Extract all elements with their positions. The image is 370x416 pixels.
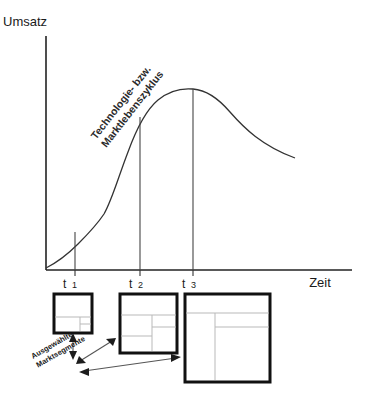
segment-box-2-frame bbox=[120, 294, 177, 353]
lifecycle-curve bbox=[46, 89, 295, 268]
segment-box-1 bbox=[54, 294, 92, 333]
tick-label-t1-base: t bbox=[63, 277, 67, 291]
segment-box-3-frame bbox=[185, 294, 270, 382]
segment-box-1-frame bbox=[54, 294, 92, 333]
tick-label-t2-sub: 2 bbox=[138, 280, 143, 290]
segment-box-2 bbox=[120, 294, 177, 353]
lifecycle-diagram: Umsatz Zeit t 1 t 2 t 3 Technologie- bzw… bbox=[0, 0, 370, 416]
arrow-box1-head-down bbox=[69, 351, 77, 360]
arrow-box2-head-right bbox=[106, 338, 116, 346]
arrow-box3-head-right bbox=[171, 354, 181, 362]
tick-label-t1-sub: 1 bbox=[72, 280, 77, 290]
arrow-box2-shaft bbox=[80, 341, 112, 361]
tick-label-t2-base: t bbox=[129, 277, 133, 291]
arrow-box3-head-left bbox=[79, 368, 89, 376]
tick-label-t3-base: t bbox=[182, 277, 186, 291]
arrow-label-to-box3 bbox=[79, 354, 181, 376]
diagram-svg: Umsatz Zeit t 1 t 2 t 3 Technologie- bzw… bbox=[0, 0, 370, 416]
x-axis-title: Zeit bbox=[309, 275, 331, 290]
tick-label-t3-sub: 3 bbox=[191, 280, 196, 290]
arrow-box3-shaft bbox=[84, 358, 176, 371]
segment-box-3 bbox=[185, 294, 270, 382]
y-axis-title: Umsatz bbox=[3, 14, 47, 29]
arrow-box2-head-left bbox=[76, 356, 86, 364]
